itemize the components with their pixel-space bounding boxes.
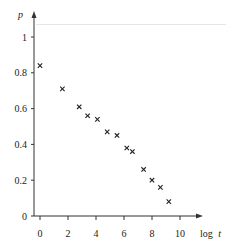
y-tick-label: 0.4 [15,139,28,150]
scatter-chart: 00.20.40.60.81 0246810 p log t [0,0,226,242]
data-points [38,63,171,203]
x-marker-icon [167,199,171,203]
x-tick-label: 6 [122,228,127,239]
y-tick-label: 0.2 [15,175,28,186]
x-axis [34,214,203,219]
y-tick-label: 0.8 [15,67,28,78]
x-marker-icon [95,117,99,121]
y-tick-label: 0 [22,211,27,222]
y-tick-label: 0.6 [15,103,28,114]
x-marker-icon [38,63,42,67]
x-marker-icon [85,114,89,118]
x-tick-label: 4 [94,228,99,239]
x-axis-arrow-icon [196,214,203,219]
y-axis-label: p [17,9,23,20]
y-axis-arrow-icon [32,11,37,18]
x-marker-icon [105,130,109,134]
x-axis-label: log t [200,228,221,239]
x-marker-icon [125,146,129,150]
x-tick-label: 2 [66,228,71,239]
x-marker-icon [130,149,134,153]
x-tick-label: 8 [150,228,155,239]
x-ticks: 0246810 [38,216,186,239]
y-axis [32,11,37,216]
x-marker-icon [141,167,145,171]
x-axis-label-var: t [218,228,221,239]
x-axis-label-prefix: log [200,228,213,239]
x-marker-icon [77,105,81,109]
y-ticks: 00.20.40.60.81 [15,32,35,222]
y-tick-label: 1 [22,32,27,43]
x-marker-icon [115,133,119,137]
x-tick-label: 10 [175,228,185,239]
x-marker-icon [60,87,64,91]
x-marker-icon [150,178,154,182]
x-tick-label: 0 [38,228,43,239]
x-marker-icon [158,185,162,189]
